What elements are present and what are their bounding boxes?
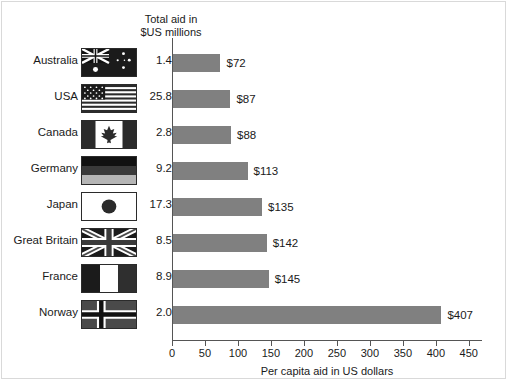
total-aid-value: 8.9 xyxy=(142,270,172,282)
x-axis-tick-label: 150 xyxy=(254,347,288,359)
x-axis-tick xyxy=(403,341,404,346)
x-axis-tick xyxy=(337,341,338,346)
country-row: USA 25.8 xyxy=(2,81,172,115)
total-aid-value: 1.4 xyxy=(142,54,172,66)
bar-value-label: $135 xyxy=(268,201,294,213)
x-axis-tick xyxy=(271,341,272,346)
x-axis-tick-label: 0 xyxy=(155,347,189,359)
country-label: Germany xyxy=(31,162,78,174)
flag-norway-icon xyxy=(81,300,137,329)
bar xyxy=(173,126,231,144)
country-row-list: Australia 1.4USA xyxy=(2,45,172,333)
country-label: France xyxy=(42,270,78,282)
flag-canada-icon xyxy=(81,120,137,149)
country-label: Australia xyxy=(33,54,78,66)
x-axis-tick xyxy=(436,341,437,346)
bar xyxy=(173,270,269,288)
country-row: Australia 1.4 xyxy=(2,45,172,79)
x-axis-label: Per capita aid in US dollars xyxy=(172,365,482,377)
country-label: USA xyxy=(54,90,78,102)
bar xyxy=(173,198,262,216)
x-axis-tick-label: 400 xyxy=(419,347,453,359)
plot-area: 050100150200250300350400450 $72$87$88$11… xyxy=(172,38,490,342)
flag-germany-icon xyxy=(81,156,137,185)
x-axis-tick-label: 300 xyxy=(353,347,387,359)
bar-value-label: $72 xyxy=(226,57,245,69)
total-aid-value: 17.3 xyxy=(142,198,172,210)
x-axis-tick-label: 100 xyxy=(221,347,255,359)
bar-value-label: $407 xyxy=(447,309,473,321)
bar xyxy=(173,54,220,72)
country-row: Germany 9.2 xyxy=(2,153,172,187)
bar-value-label: $113 xyxy=(254,165,279,177)
country-label: Great Britain xyxy=(13,234,78,246)
country-label: Japan xyxy=(47,198,78,210)
country-label: Norway xyxy=(39,306,78,318)
flag-france-icon xyxy=(81,264,137,293)
bar xyxy=(173,162,248,180)
y-axis-line xyxy=(172,38,173,341)
total-aid-value: 9.2 xyxy=(142,162,172,174)
bar-value-label: $87 xyxy=(236,93,255,105)
chart-frame: Total aid in $US millions Australia 1.4U… xyxy=(1,1,506,379)
total-aid-value: 25.8 xyxy=(142,90,172,102)
bar xyxy=(173,90,230,108)
flag-great-britain-icon xyxy=(81,228,137,257)
country-row: France 8.9 xyxy=(2,261,172,295)
x-axis-tick xyxy=(238,341,239,346)
column-header: Total aid in $US millions xyxy=(110,13,232,39)
country-row: Japan 17.3 xyxy=(2,189,172,223)
bar xyxy=(173,306,441,324)
flag-usa-icon xyxy=(81,84,137,113)
bar xyxy=(173,234,267,252)
flag-japan-icon xyxy=(81,192,137,221)
total-aid-value: 2.0 xyxy=(142,306,172,318)
x-axis-tick-label: 250 xyxy=(320,347,354,359)
x-axis-tick xyxy=(205,341,206,346)
total-aid-value: 8.5 xyxy=(142,234,172,246)
x-axis-tick-label: 450 xyxy=(452,347,486,359)
flag-australia-icon xyxy=(81,48,137,77)
country-row: Canada 2.8 xyxy=(2,117,172,151)
total-aid-value: 2.8 xyxy=(142,126,172,138)
x-axis-tick xyxy=(370,341,371,346)
x-axis-tick-label: 200 xyxy=(287,347,321,359)
x-axis-tick-label: 350 xyxy=(386,347,420,359)
x-axis-tick xyxy=(172,341,173,346)
bar-value-label: $142 xyxy=(273,237,299,249)
x-axis-tick xyxy=(469,341,470,346)
column-header-line1: Total aid in xyxy=(110,13,232,26)
country-label: Canada xyxy=(38,126,78,138)
country-row: Great Britain 8.5 xyxy=(2,225,172,259)
x-axis-tick xyxy=(304,341,305,346)
bar-value-label: $88 xyxy=(237,129,256,141)
country-row: Norway 2.0 xyxy=(2,297,172,331)
bar-value-label: $145 xyxy=(275,273,301,285)
x-axis-tick-label: 50 xyxy=(188,347,222,359)
